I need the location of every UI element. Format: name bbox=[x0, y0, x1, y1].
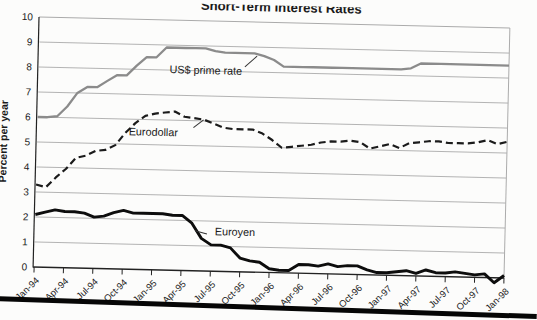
series-line-eurodollar bbox=[36, 108, 508, 198]
y-tick-label: 5 bbox=[24, 136, 30, 147]
gridline bbox=[36, 167, 506, 178]
series-label: Euroyen bbox=[215, 225, 255, 238]
x-tick-label: Jul-95 bbox=[191, 279, 217, 305]
y-tick-label: 3 bbox=[23, 186, 29, 197]
y-tick-label: 10 bbox=[22, 11, 34, 22]
y-tick-label: 2 bbox=[23, 211, 29, 222]
x-tick-label: Apr-96 bbox=[278, 281, 306, 308]
y-tick-label: 1 bbox=[22, 236, 28, 247]
series-label: US$ prime rate bbox=[169, 63, 242, 77]
chart-title: Short-Term Interest Rates bbox=[201, 0, 362, 17]
x-tick-label: Oct-97 bbox=[454, 285, 482, 312]
y-tick-label: 4 bbox=[24, 161, 30, 172]
x-tick-label: Jul-96 bbox=[309, 282, 335, 308]
series-label-leader bbox=[245, 56, 257, 67]
x-tick-label: Jul-97 bbox=[426, 284, 452, 310]
x-tick-label: Jan-97 bbox=[365, 283, 393, 311]
y-tick-label: 7 bbox=[26, 86, 32, 97]
series-line-prime bbox=[38, 45, 510, 129]
y-tick-label: 9 bbox=[27, 36, 33, 47]
x-tick-label: Jan-98 bbox=[483, 286, 511, 314]
gridline bbox=[36, 192, 506, 203]
gridline bbox=[37, 142, 507, 153]
x-tick-label: Apr-97 bbox=[395, 284, 423, 311]
y-tick-label: 0 bbox=[21, 261, 27, 272]
gridline bbox=[39, 42, 509, 53]
gridline bbox=[38, 117, 508, 128]
x-tick-label: Oct-96 bbox=[336, 282, 364, 309]
gridline bbox=[38, 92, 508, 103]
plot-frame-top bbox=[39, 17, 510, 28]
gridline bbox=[39, 67, 509, 78]
y-tick-label: 8 bbox=[26, 61, 32, 72]
y-axis-title: Percent per year bbox=[0, 100, 10, 183]
series-label: Eurodollar bbox=[129, 125, 179, 138]
gridline bbox=[35, 217, 505, 228]
y-tick-label: 6 bbox=[25, 111, 31, 122]
gridline bbox=[35, 242, 505, 253]
x-tick-label: Jul-94 bbox=[74, 276, 100, 302]
